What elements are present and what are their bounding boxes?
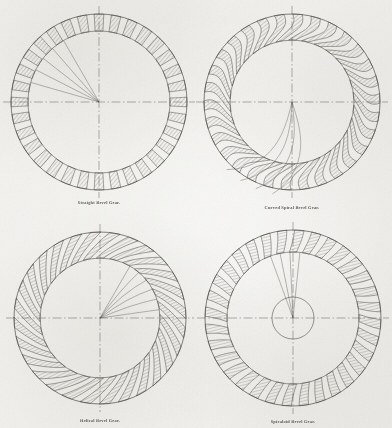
curved-spiral-bevel-gear <box>196 6 388 198</box>
gear-plate-illustration <box>0 0 392 428</box>
spiraloid-bevel-gear <box>197 222 389 414</box>
straight-bevel-gear <box>3 6 195 198</box>
figure-caption: Helical Bevel Gear. <box>80 418 120 423</box>
helical-bevel-gear <box>6 224 194 412</box>
figure-caption: Spiraloid Bevel Gear. <box>271 419 316 424</box>
figure-caption: Curved Spiral Bevel Gear. <box>265 205 320 210</box>
figure-caption: Straight Bevel Gear. <box>78 200 120 205</box>
